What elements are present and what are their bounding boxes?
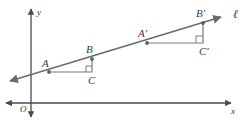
x-axis-label: x (231, 107, 235, 116)
point-label-c-prime: C′ (199, 46, 209, 57)
origin-label: O (20, 105, 27, 114)
point-label-a: A (42, 58, 49, 69)
point-dot-a-prime (145, 41, 149, 45)
right-angle-mark-c-prime (196, 36, 203, 43)
line-label-l: ℓ (233, 8, 238, 20)
point-label-c: C (88, 75, 95, 86)
geometry-canvas (0, 0, 247, 132)
point-dot-a (47, 70, 51, 74)
point-dot-b (90, 57, 94, 61)
point-label-a-prime: A′ (138, 28, 147, 39)
point-label-b-prime: B′ (196, 8, 205, 19)
point-label-b: B (86, 44, 93, 55)
geometry-figure: A B C A′ B′ C′ ℓ y x O (0, 0, 247, 132)
right-angle-mark-c (86, 66, 92, 72)
point-dot-b-prime (201, 21, 205, 25)
triangle-a-prime-b-prime-c-prime (147, 23, 203, 43)
y-axis-label: y (37, 8, 41, 17)
line-l (10, 17, 221, 81)
